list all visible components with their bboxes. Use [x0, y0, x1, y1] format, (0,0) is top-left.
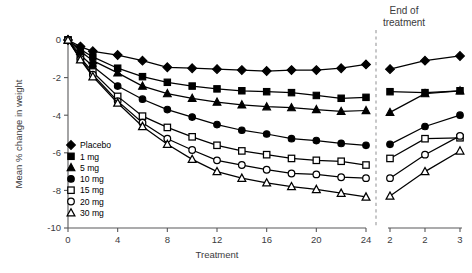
x-tick-label-post: 2: [422, 234, 427, 245]
marker-filled-diamond: [337, 64, 346, 73]
y-tick-label: -8: [53, 185, 61, 196]
marker-filled-square: [263, 89, 269, 95]
x-tick-label-main: 4: [115, 234, 120, 245]
marker-filled-circle: [387, 141, 394, 148]
legend-item-label: 15 mg: [80, 185, 104, 195]
y-tick-label: 0: [56, 34, 61, 45]
legend-item-1-mg[interactable]: 1 mg: [68, 152, 100, 162]
marker-filled-square: [214, 86, 220, 92]
legend-item-label: 10 mg: [80, 174, 104, 184]
marker-open-triangle: [386, 192, 394, 199]
legend-item-10-mg[interactable]: 10 mg: [68, 174, 104, 184]
marker-filled-diamond: [386, 65, 395, 74]
marker-filled-square: [313, 92, 319, 98]
marker-open-square: [189, 134, 195, 140]
marker-open-triangle: [456, 147, 464, 154]
x-tick-label-post: 3: [457, 234, 462, 245]
marker-filled-square: [338, 95, 344, 101]
series-placebo: [64, 36, 465, 76]
marker-filled-diamond: [213, 65, 222, 74]
marker-filled-circle: [189, 114, 196, 121]
marker-open-circle: [457, 133, 464, 140]
y-tick-label: -6: [53, 147, 61, 158]
marker-open-circle: [263, 166, 270, 173]
marker-filled-circle: [422, 123, 429, 130]
legend-item-30-mg[interactable]: 30 mg: [67, 208, 104, 218]
marker-open-circle: [68, 198, 75, 205]
marker-filled-diamond: [237, 66, 246, 75]
marker-open-square: [239, 148, 245, 154]
y-axis-title: Mean % change in weight: [13, 79, 24, 188]
legend-item-5-mg[interactable]: 5 mg: [67, 163, 99, 173]
marker-filled-diamond: [262, 67, 271, 76]
x-tick-label-main: 0: [65, 234, 70, 245]
marker-open-circle: [239, 162, 246, 169]
marker-filled-circle: [164, 106, 171, 113]
x-tick-label-main: 24: [361, 234, 372, 245]
legend-item-label: 5 mg: [80, 163, 99, 173]
marker-filled-diamond: [362, 60, 371, 69]
marker-open-square: [387, 155, 393, 161]
marker-filled-circle: [114, 83, 121, 90]
marker-open-circle: [189, 147, 196, 154]
marker-filled-circle: [239, 127, 246, 134]
marker-filled-circle: [214, 121, 221, 128]
marker-open-square: [338, 158, 344, 164]
legend-item-15-mg[interactable]: 15 mg: [68, 185, 104, 195]
marker-open-square: [164, 124, 170, 130]
weight-change-line-chart: 0-2-4-6-8-1004812162024223TreatmentMean …: [0, 0, 472, 273]
marker-filled-square: [139, 73, 145, 79]
marker-open-square: [313, 157, 319, 163]
marker-filled-circle: [363, 142, 370, 149]
marker-open-triangle: [213, 168, 221, 175]
marker-filled-square: [288, 89, 294, 95]
marker-filled-diamond: [287, 66, 296, 75]
marker-open-square: [139, 113, 145, 119]
marker-filled-circle: [68, 176, 75, 183]
marker-filled-square: [363, 94, 369, 100]
marker-filled-square: [387, 89, 393, 95]
marker-open-square: [263, 151, 269, 157]
marker-open-circle: [338, 174, 345, 181]
marker-filled-diamond: [456, 52, 465, 61]
y-tick-label: -4: [53, 110, 61, 121]
series-30-mg: [64, 36, 464, 200]
marker-open-circle: [313, 171, 320, 178]
end-of-treatment-label-line1: End of: [390, 5, 419, 16]
marker-filled-diamond: [138, 56, 147, 65]
marker-open-circle: [288, 170, 295, 177]
legend-item-label: 1 mg: [80, 152, 99, 162]
end-of-treatment-label-line2: treatment: [383, 17, 425, 28]
marker-filled-circle: [457, 112, 464, 119]
marker-filled-diamond: [421, 56, 430, 65]
marker-open-square: [288, 155, 294, 161]
marker-filled-diamond: [163, 63, 172, 72]
legend-item-label: 20 mg: [80, 197, 104, 207]
marker-open-circle: [387, 175, 394, 182]
y-tick-label: -2: [53, 72, 61, 83]
marker-open-square: [214, 142, 220, 148]
x-tick-label-main: 8: [165, 234, 170, 245]
legend-item-placebo[interactable]: Placebo: [67, 140, 112, 150]
legend-item-label: Placebo: [80, 140, 111, 150]
marker-open-square: [422, 136, 428, 142]
marker-filled-diamond: [113, 51, 122, 60]
marker-filled-triangle: [386, 108, 394, 115]
x-tick-label-main: 12: [212, 234, 223, 245]
x-tick-label-post: 2: [387, 234, 392, 245]
chart-figure: 0-2-4-6-8-1004812162024223TreatmentMean …: [0, 0, 472, 273]
marker-filled-circle: [313, 137, 320, 144]
legend: Placebo1 mg5 mg10 mg15 mg20 mg30 mg: [67, 140, 112, 218]
marker-open-circle: [214, 157, 221, 164]
marker-open-triangle: [421, 168, 429, 175]
y-tick-label: -10: [47, 222, 61, 233]
marker-filled-square: [164, 79, 170, 85]
legend-item-20-mg[interactable]: 20 mg: [68, 197, 104, 207]
marker-filled-square: [68, 153, 74, 159]
series-line-main: [68, 40, 366, 145]
marker-filled-circle: [338, 140, 345, 147]
x-axis-title: Treatment: [196, 249, 239, 260]
marker-filled-diamond: [188, 64, 197, 73]
marker-filled-square: [239, 88, 245, 94]
legend-item-label: 30 mg: [80, 208, 104, 218]
